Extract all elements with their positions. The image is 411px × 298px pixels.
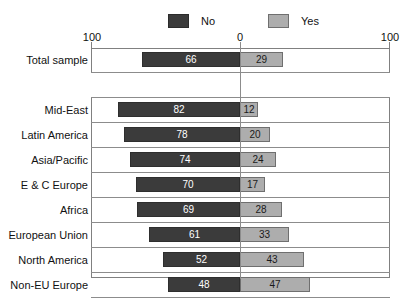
bar-no: 52	[163, 252, 240, 267]
bar-no: 66	[142, 52, 240, 67]
bar-no: 61	[149, 227, 240, 242]
axis-tick-labels: 100 0 100	[0, 31, 411, 45]
zero-baseline	[240, 42, 241, 279]
bar-yes: 33	[240, 227, 289, 242]
bar-value-no: 70	[182, 180, 193, 190]
category-label: North America	[0, 255, 88, 266]
bar-value-yes: 47	[269, 280, 280, 290]
category-label-column: Total sampleMid-EastLatin AmericaAsia/Pa…	[0, 48, 88, 278]
category-label: E & C Europe	[0, 180, 88, 191]
chart-legend: No Yes	[0, 10, 411, 32]
bar-yes: 12	[240, 102, 258, 117]
bar-value-no: 52	[196, 255, 207, 265]
bar-yes: 47	[240, 277, 310, 292]
bar-no: 78	[124, 127, 240, 142]
legend-label-yes: Yes	[301, 16, 319, 27]
bar-value-no: 66	[185, 55, 196, 65]
category-label: Asia/Pacific	[0, 155, 88, 166]
bar-value-yes: 12	[243, 105, 254, 115]
category-label: Latin America	[0, 130, 88, 141]
bar-value-yes: 33	[259, 230, 270, 240]
legend-entry-yes: Yes	[268, 10, 319, 32]
bar-value-no: 48	[198, 280, 209, 290]
axis-tick-label-right: 100	[376, 31, 404, 43]
axis-tick-label-left: 100	[78, 31, 106, 43]
bar-value-no: 74	[179, 155, 190, 165]
bar-no: 48	[168, 277, 240, 292]
bar-yes: 29	[240, 52, 283, 67]
bar-value-yes: 20	[249, 130, 260, 140]
bar-yes: 17	[240, 177, 265, 192]
bar-value-no: 78	[176, 130, 187, 140]
category-label: Non-EU Europe	[0, 280, 88, 291]
bar-value-yes: 24	[252, 155, 263, 165]
bar-value-no: 82	[173, 105, 184, 115]
bar-value-yes: 28	[255, 205, 266, 215]
legend-swatch-yes-icon	[268, 14, 289, 28]
bar-value-no: 61	[189, 230, 200, 240]
bar-no: 82	[118, 102, 240, 117]
legend-entry-no: No	[168, 10, 215, 32]
bar-yes: 24	[240, 152, 276, 167]
bar-yes: 20	[240, 127, 270, 142]
bar-no: 74	[130, 152, 240, 167]
bar-no: 70	[136, 177, 240, 192]
bar-value-yes: 17	[247, 180, 258, 190]
category-label: European Union	[0, 230, 88, 241]
legend-label-no: No	[201, 16, 215, 27]
bar-yes: 28	[240, 202, 282, 217]
category-label: Africa	[0, 205, 88, 216]
bar-value-yes: 43	[266, 255, 277, 265]
legend-swatch-no-icon	[168, 14, 189, 28]
bar-yes: 43	[240, 252, 304, 267]
bar-no: 69	[137, 202, 240, 217]
category-label: Total sample	[0, 55, 88, 66]
bar-value-no: 69	[183, 205, 194, 215]
category-label: Mid-East	[0, 105, 88, 116]
bar-value-yes: 29	[256, 55, 267, 65]
